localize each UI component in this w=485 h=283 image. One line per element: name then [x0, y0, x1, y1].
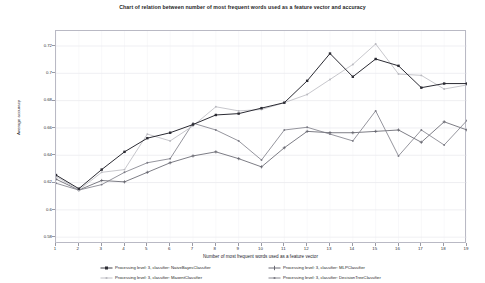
- x-tick-mark: [169, 243, 170, 246]
- y-tick-label: 0.66: [26, 125, 52, 130]
- chart-title: Chart of relation between number of most…: [0, 4, 485, 10]
- x-tick-mark: [146, 243, 147, 246]
- legend-label: Processing level: 3, classifier: NaiveBa…: [115, 265, 211, 271]
- y-tick-label: 0.6: [26, 207, 52, 212]
- x-tick-label: 17: [413, 246, 427, 251]
- x-tick-label: 15: [368, 246, 382, 251]
- y-tick-mark: [52, 72, 55, 73]
- x-tick-label: 19: [459, 246, 473, 251]
- legend-square-marker-icon: [100, 265, 113, 271]
- legend-dot-marker-icon: [268, 275, 281, 281]
- x-tick-label: 10: [254, 246, 268, 251]
- x-tick-label: 5: [139, 246, 153, 251]
- legend-dot-marker-icon: [100, 275, 113, 281]
- x-tick-label: 9: [231, 246, 245, 251]
- x-tick-label: 3: [94, 246, 108, 251]
- x-tick-mark: [420, 243, 421, 246]
- x-tick-mark: [283, 243, 284, 246]
- legend-label: Processing level: 3, classifier: Decisio…: [283, 275, 381, 281]
- x-tick-mark: [78, 243, 79, 246]
- x-tick-mark: [261, 243, 262, 246]
- x-tick-label: 2: [71, 246, 85, 251]
- y-tick-label: 0.72: [26, 43, 52, 48]
- y-tick-mark: [52, 154, 55, 155]
- chart-legend: Processing level: 3, classifier: NaiveBa…: [100, 264, 430, 282]
- x-tick-label: 16: [391, 246, 405, 251]
- x-tick-label: 1: [48, 246, 62, 251]
- legend-plus-marker-icon: [268, 265, 281, 271]
- x-tick-mark: [192, 243, 193, 246]
- x-tick-mark: [443, 243, 444, 246]
- chart-series-layer: [56, 31, 467, 244]
- x-tick-label: 6: [162, 246, 176, 251]
- x-tick-mark: [124, 243, 125, 246]
- x-tick-mark: [466, 243, 467, 246]
- x-tick-label: 18: [436, 246, 450, 251]
- plot-area: [55, 30, 466, 243]
- y-tick-mark: [52, 236, 55, 237]
- y-tick-mark: [52, 100, 55, 101]
- legend-label: Processing level: 3, classifier: MLPClas…: [283, 265, 365, 271]
- y-tick-mark: [52, 209, 55, 210]
- x-tick-mark: [55, 243, 56, 246]
- y-tick-label: 0.68: [26, 97, 52, 102]
- x-tick-label: 12: [299, 246, 313, 251]
- x-tick-label: 13: [322, 246, 336, 251]
- y-axis-label: Average accuracy: [16, 88, 21, 148]
- x-tick-mark: [375, 243, 376, 246]
- y-tick-mark: [52, 127, 55, 128]
- legend-item[interactable]: Processing level: 3, classifier: Decisio…: [268, 274, 430, 282]
- y-tick-mark: [52, 182, 55, 183]
- y-tick-label: 0.58: [26, 234, 52, 239]
- x-tick-mark: [398, 243, 399, 246]
- y-tick-label: 0.64: [26, 152, 52, 157]
- chart-container: Chart of relation between number of most…: [0, 0, 485, 283]
- y-tick-mark: [52, 45, 55, 46]
- x-tick-mark: [306, 243, 307, 246]
- x-tick-mark: [101, 243, 102, 246]
- y-tick-label: 0.62: [26, 179, 52, 184]
- legend-item[interactable]: Processing level: 3, classifier: NaiveBa…: [100, 264, 262, 272]
- x-tick-label: 8: [208, 246, 222, 251]
- legend-item[interactable]: Processing level: 3, classifier: MaxentC…: [100, 274, 262, 282]
- legend-label: Processing level: 3, classifier: MaxentC…: [115, 275, 202, 281]
- y-tick-label: 0.7: [26, 70, 52, 75]
- x-tick-mark: [238, 243, 239, 246]
- x-tick-label: 4: [117, 246, 131, 251]
- x-tick-mark: [215, 243, 216, 246]
- x-tick-label: 11: [276, 246, 290, 251]
- x-axis-label: Number of most frequent words used as a …: [55, 254, 466, 259]
- x-tick-mark: [352, 243, 353, 246]
- legend-item[interactable]: Processing level: 3, classifier: MLPClas…: [268, 264, 430, 272]
- x-tick-mark: [329, 243, 330, 246]
- x-tick-label: 7: [185, 246, 199, 251]
- x-tick-label: 14: [345, 246, 359, 251]
